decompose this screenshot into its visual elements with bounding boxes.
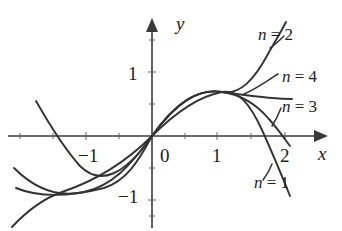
math-figure: y x −1 0 1 2 1 −1 n = 2 n = 4 n = 3 n = … <box>0 0 342 231</box>
curve-label-n2-rest: = 2 <box>267 25 294 44</box>
x-tick-label-1: 1 <box>212 145 222 166</box>
leader-line-n3 <box>272 108 281 126</box>
x-axis-arrowhead <box>314 130 328 142</box>
y-tick-label-minus1: −1 <box>118 186 138 207</box>
curve-label-n1-var: n <box>254 173 263 192</box>
curve-label-n2-var: n <box>258 25 267 44</box>
curve-label-n3-rest: = 3 <box>291 97 318 116</box>
y-axis-label: y <box>174 13 185 34</box>
curve-label-n3-var: n <box>282 97 291 116</box>
y-axis <box>146 18 158 228</box>
y-axis-arrowhead <box>146 18 158 32</box>
x-tick-label-0: 0 <box>160 145 170 166</box>
x-tick-label-2: 2 <box>280 145 290 166</box>
x-axis-label: x <box>317 143 327 164</box>
curve-label-n2: n = 2 <box>258 25 293 44</box>
curve-n1 <box>12 92 290 227</box>
curve-n4 <box>16 91 292 194</box>
curve-label-n4: n = 4 <box>282 67 318 86</box>
leader-line-n4 <box>244 74 278 94</box>
curve-label-n4-var: n <box>282 67 291 86</box>
curve-label-n3: n = 3 <box>282 97 317 116</box>
curve-label-n4-rest: = 4 <box>291 67 318 86</box>
curve-label-n1: n = 1 <box>254 173 289 192</box>
x-tick-label-minus1: −1 <box>78 145 98 166</box>
coordinate-plot: y x −1 0 1 2 1 −1 n = 2 n = 4 n = 3 n = … <box>0 0 342 231</box>
y-tick-label-1: 1 <box>128 63 138 84</box>
curve-label-n1-rest: = 1 <box>263 173 290 192</box>
